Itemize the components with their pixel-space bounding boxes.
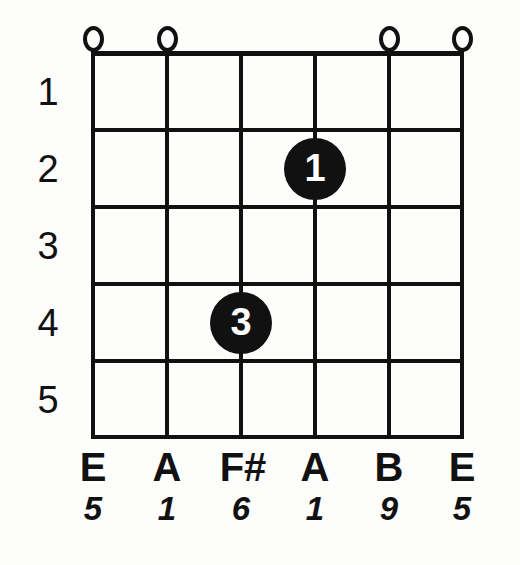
open-string-marker-string-6 bbox=[452, 26, 473, 52]
interval-label-string-6: 5 bbox=[417, 492, 507, 525]
fret-number-4: 4 bbox=[24, 304, 72, 342]
open-string-marker-string-5 bbox=[379, 26, 400, 52]
open-string-marker-string-2 bbox=[157, 26, 178, 52]
fret-line-5 bbox=[91, 435, 464, 439]
fret-number-2: 2 bbox=[24, 150, 72, 188]
fret-line-4 bbox=[91, 359, 464, 363]
finger-dot-string-3-fret-4: 3 bbox=[210, 292, 272, 354]
note-label-string-6: E bbox=[417, 447, 507, 487]
fret-number-3: 3 bbox=[24, 227, 72, 265]
fret-number-5: 5 bbox=[24, 381, 72, 419]
fret-line-3 bbox=[91, 282, 464, 286]
fret-number-1: 1 bbox=[24, 73, 72, 111]
finger-dot-label: 1 bbox=[304, 149, 325, 187]
finger-dot-string-4-fret-2: 1 bbox=[284, 138, 346, 200]
finger-dot-label: 3 bbox=[230, 303, 251, 341]
string-line-5 bbox=[387, 53, 391, 437]
fret-line-2 bbox=[91, 205, 464, 209]
string-line-2 bbox=[165, 53, 169, 437]
string-line-3 bbox=[239, 53, 243, 437]
string-line-6 bbox=[460, 53, 464, 437]
open-string-marker-string-1 bbox=[83, 26, 104, 52]
string-line-4 bbox=[313, 53, 317, 437]
string-line-1 bbox=[91, 53, 95, 437]
chord-diagram: 1 2 3 4 5 1 3 E A F# A B E 5 1 bbox=[0, 0, 520, 565]
nut-line bbox=[91, 51, 464, 56]
fret-line-1 bbox=[91, 128, 464, 132]
fretboard-grid: 1 3 bbox=[93, 53, 462, 437]
